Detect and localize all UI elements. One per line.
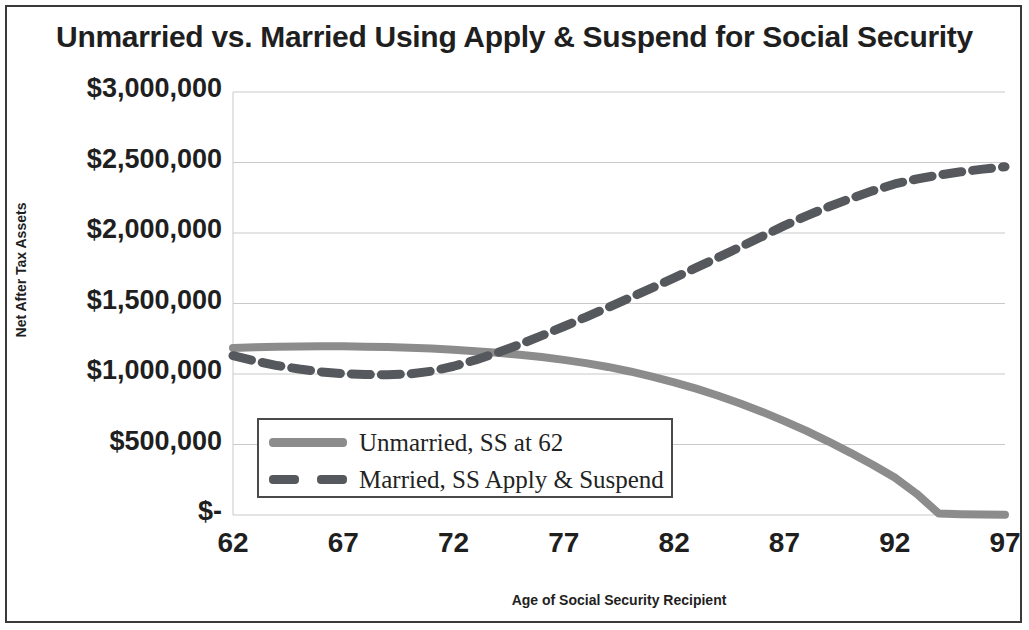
legend-item-married: Married, SS Apply & Suspend <box>269 461 661 498</box>
x-axis-title: Age of Social Security Recipient <box>233 592 1005 608</box>
legend-swatch-solid-icon <box>269 438 347 447</box>
x-tick-label: 97 <box>989 527 1020 559</box>
legend-label-married: Married, SS Apply & Suspend <box>359 467 664 492</box>
x-tick-label: 72 <box>438 527 469 559</box>
legend-swatch-dashed-icon <box>269 475 347 484</box>
x-tick-label: 67 <box>328 527 359 559</box>
legend-label-unmarried: Unmarried, SS at 62 <box>359 430 563 455</box>
chart-figure: Unmarried vs. Married Using Apply & Susp… <box>0 0 1029 630</box>
legend-item-unmarried: Unmarried, SS at 62 <box>269 424 661 461</box>
x-tick-label: 82 <box>659 527 690 559</box>
x-tick-label: 77 <box>548 527 579 559</box>
x-tick-label: 92 <box>879 527 910 559</box>
x-axis-tick-labels: 6267727782879297 <box>0 0 1029 630</box>
x-tick-label: 87 <box>769 527 800 559</box>
chart-legend: Unmarried, SS at 62 Married, SS Apply & … <box>257 418 673 498</box>
x-tick-label: 62 <box>217 527 248 559</box>
